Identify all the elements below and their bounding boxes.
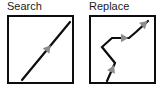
replace-edge-path xyxy=(102,21,148,81)
rewrite-rule-figure: Search Replace xyxy=(0,0,165,94)
panel-replace: Replace xyxy=(84,0,165,94)
panel-replace-box xyxy=(89,15,156,84)
replace-graph xyxy=(91,17,154,82)
panel-search: Search xyxy=(0,0,82,94)
replace-arrowhead-icon-2 xyxy=(121,34,128,43)
panel-search-box xyxy=(7,15,74,84)
panel-replace-label: Replace xyxy=(89,0,129,13)
search-graph xyxy=(9,17,72,82)
replace-arrowhead-icon-1 xyxy=(107,63,118,73)
panel-search-label: Search xyxy=(7,0,42,13)
